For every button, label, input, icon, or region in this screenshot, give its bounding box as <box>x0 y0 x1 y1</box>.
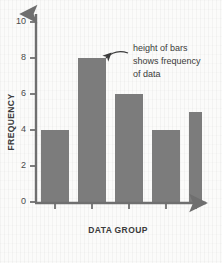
annotation-line-1: height of bars <box>133 43 188 53</box>
bar-item <box>152 130 180 202</box>
y-tick-label-8: 8 <box>21 52 26 62</box>
bar-item <box>189 112 202 202</box>
annotation-line-2: shows frequency <box>133 56 201 66</box>
y-tick-label-6: 6 <box>21 88 26 98</box>
annotation-arrow-icon <box>106 52 128 58</box>
bar-item <box>41 130 69 202</box>
bar-series <box>41 58 202 202</box>
y-tick-label-10: 10 <box>16 16 26 26</box>
bar-item <box>115 94 143 202</box>
y-axis-title: FREQUENCY <box>6 94 16 151</box>
y-tick-label-2: 2 <box>21 160 26 170</box>
y-tick-label-0: 0 <box>21 196 26 206</box>
x-axis-title: DATA GROUP <box>88 225 148 235</box>
bar-chart-figure: 0 2 4 6 8 10 DATA GROUP FREQUENCY height… <box>0 0 222 263</box>
chart-canvas: 0 2 4 6 8 10 DATA GROUP FREQUENCY height… <box>0 0 222 263</box>
bar-item <box>78 58 106 202</box>
annotation-line-3: of data <box>133 69 161 79</box>
y-tick-label-4: 4 <box>21 124 26 134</box>
